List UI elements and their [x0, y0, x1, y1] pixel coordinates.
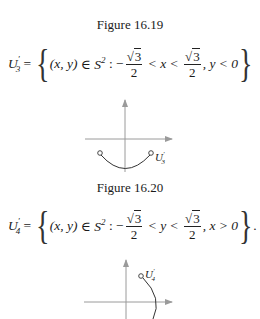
eq-end: .: [253, 218, 256, 234]
fraction-sqrt3-over-2: √3 2: [126, 211, 143, 242]
diagram-label-u4: U′4: [145, 267, 155, 283]
eq-equals: =: [20, 56, 34, 72]
diagram-u4: [0, 250, 260, 319]
diagram-u3: [0, 90, 260, 180]
close-brace: }: [239, 44, 252, 84]
diagram-label-u3: U′3: [155, 150, 165, 166]
eq-tail: , y < 0: [203, 56, 238, 72]
eq-lhs: U′4: [8, 216, 20, 235]
open-brace: {: [35, 206, 48, 246]
eq-in: ∈: [78, 56, 95, 73]
figure-caption-16-20: Figure 16.20: [0, 180, 260, 196]
eq-colon: : −: [106, 218, 124, 234]
eq-pair: (x, y): [50, 56, 78, 72]
equation-u3: U′3 = { (x, y) ∈ S2 : − √3 2 < x < √3 2 …: [0, 44, 260, 84]
eq-condition: < x <: [144, 56, 182, 72]
open-endpoint-top: [139, 274, 144, 279]
eq-set: S2: [94, 217, 105, 235]
figure-caption-16-19: Figure 16.19: [0, 17, 260, 33]
open-endpoint-right: [149, 151, 154, 156]
fraction-sqrt3-over-2: √3 2: [184, 211, 201, 242]
eq-set: S2: [94, 55, 105, 73]
eq-lhs: U′3: [8, 54, 20, 73]
eq-in: ∈: [78, 218, 95, 235]
eq-tail: , x > 0: [203, 218, 238, 234]
open-brace: {: [35, 44, 48, 84]
close-brace: }: [239, 206, 252, 246]
equation-u4: U′4 = { (x, y) ∈ S2 : − √3 2 < y < √3 2 …: [0, 206, 260, 246]
eq-pair: (x, y): [50, 218, 78, 234]
open-endpoint-left: [98, 151, 103, 156]
fraction-sqrt3-over-2: √3 2: [126, 49, 143, 80]
eq-equals: =: [20, 218, 34, 234]
eq-colon: : −: [106, 56, 124, 72]
arc-u4: [143, 278, 156, 319]
eq-condition: < y <: [144, 218, 182, 234]
fraction-sqrt3-over-2: √3 2: [184, 49, 201, 80]
